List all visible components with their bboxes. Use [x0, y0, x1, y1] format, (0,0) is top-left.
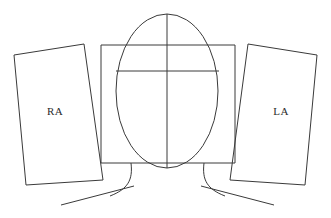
- right-vessel-line: [201, 186, 274, 205]
- diagram-canvas: RA LA: [0, 0, 331, 218]
- left-vessel-line: [61, 186, 134, 205]
- label-ra: RA: [47, 105, 63, 117]
- label-la: LA: [273, 105, 288, 117]
- schematic-svg: RA LA: [0, 0, 331, 218]
